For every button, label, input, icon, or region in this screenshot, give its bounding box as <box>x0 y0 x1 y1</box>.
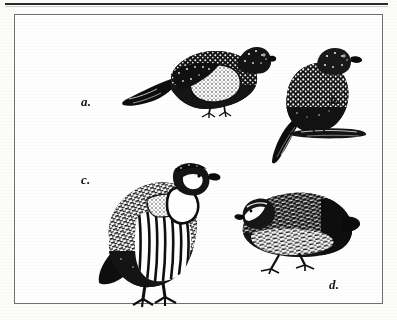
figure-frame: a. b. c. d. <box>14 14 383 304</box>
bird-b-perch <box>289 128 366 138</box>
bird-b-bill <box>350 56 362 63</box>
bird-illustration-a <box>119 39 277 119</box>
bird-d-eye <box>250 210 253 213</box>
bird-c-eye <box>197 174 200 177</box>
bird-illustration-c <box>95 155 225 310</box>
bird-c-bill <box>208 173 220 180</box>
bird-d-tail <box>341 216 360 231</box>
scanned-page: a. b. c. d. <box>0 0 397 320</box>
bird-illustration-b <box>267 43 379 167</box>
figure-label-c: c. <box>81 173 91 186</box>
figure-label-d: d. <box>329 278 339 291</box>
header-rule-secondary <box>5 6 388 7</box>
figure-label-b: b. <box>330 93 340 106</box>
header-rule <box>5 3 388 5</box>
bird-illustration-d <box>213 183 361 275</box>
figure-label-a: a. <box>81 95 91 108</box>
bird-b-head <box>317 48 351 75</box>
